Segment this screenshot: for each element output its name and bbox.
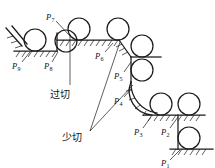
- hatching-p3-p2: [148, 115, 200, 121]
- point-label-p1: P1: [161, 159, 169, 168]
- cutter-sweep-arc: [131, 82, 157, 113]
- tool-circle: [24, 29, 46, 51]
- workpiece-profile: [6, 26, 213, 149]
- tool-circle: [131, 35, 153, 57]
- point-label-p3: P3: [134, 128, 142, 137]
- point-label-p5: P5: [114, 72, 122, 81]
- point-label-p8: P8: [44, 62, 52, 71]
- tool-circle: [131, 59, 153, 81]
- tool-circle: [178, 93, 200, 115]
- annotation-undercut: 少切: [62, 133, 82, 143]
- hatching-p7-p6: [60, 40, 118, 46]
- profile-edge-p6-p5-chamfer: [119, 40, 131, 57]
- tool-circle: [178, 127, 200, 149]
- profile-edge-left-slant-outer: [6, 28, 22, 46]
- annotation-overcut: 过切: [50, 90, 70, 100]
- point-label-p2: P2: [161, 128, 169, 137]
- point-label-p9: P9: [12, 62, 20, 71]
- hatching-p9-p8: [16, 51, 56, 57]
- point-label-p6: P6: [95, 52, 103, 61]
- point-label-p4: P4: [114, 97, 122, 106]
- tool-circle: [55, 30, 77, 52]
- point-label-p7: P7: [46, 13, 54, 22]
- tool-circle: [107, 18, 129, 40]
- hatching-p1-bottom: [172, 149, 206, 155]
- diagram-canvas: [0, 0, 215, 168]
- tool-circles: [24, 18, 200, 149]
- tool-path-diagram: P9 P8 P7 P6 P5 P4 P3 P2 P1 过切 少切: [0, 0, 215, 168]
- tool-circle: [68, 18, 90, 40]
